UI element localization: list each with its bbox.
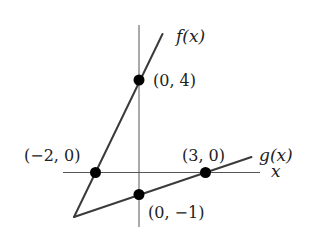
point-0-4-label: (0, 4) (153, 71, 196, 90)
x-axis-label: x (271, 161, 281, 181)
point-3-0-label: (3, 0) (182, 146, 225, 165)
function-graph: f(x) (0, 4) (−2, 0) (3, 0) g(x) x (0, −1… (0, 0, 311, 239)
f-label: f(x) (174, 26, 205, 46)
point-neg2-0-label: (−2, 0) (24, 146, 80, 165)
point-0-neg1-label: (0, −1) (148, 203, 204, 222)
f-line (74, 34, 163, 217)
point-0-neg1 (134, 189, 145, 200)
point-neg2-0 (90, 167, 101, 178)
point-0-4 (134, 75, 145, 86)
graph-canvas: f(x) (0, 4) (−2, 0) (3, 0) g(x) x (0, −1… (0, 0, 311, 239)
point-3-0 (200, 167, 211, 178)
